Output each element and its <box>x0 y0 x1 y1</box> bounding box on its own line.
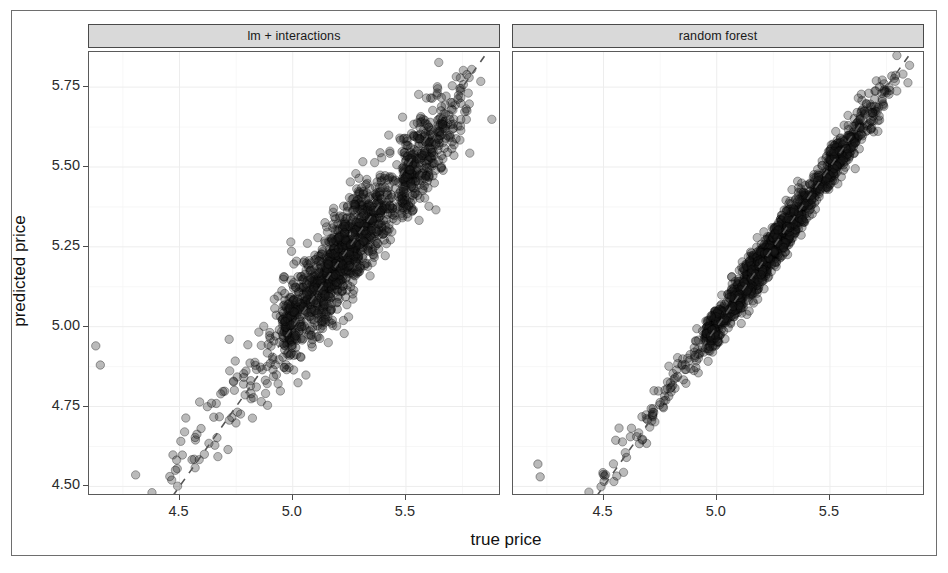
scatter-point <box>447 120 455 128</box>
scatter-point <box>891 77 899 85</box>
scatter-point <box>798 179 806 187</box>
scatter-point <box>324 260 332 268</box>
scatter-point <box>210 413 218 421</box>
scatter-point <box>488 115 496 123</box>
scatter-point <box>334 245 342 253</box>
scatter-point <box>229 378 237 386</box>
scatter-point <box>382 226 390 234</box>
scatter-canvas-random-forest <box>513 52 924 495</box>
y-tick-mark <box>83 86 88 87</box>
scatter-point <box>816 185 824 193</box>
scatter-point <box>321 318 329 326</box>
scatter-point <box>813 165 821 173</box>
scatter-point <box>802 215 810 223</box>
scatter-point <box>403 203 411 211</box>
scatter-point <box>442 92 450 100</box>
scatter-point <box>477 77 485 85</box>
scatter-point <box>739 264 747 272</box>
scatter-point <box>707 313 715 321</box>
faceted-scatter-plot: lm + interactions random forest 4.504.75… <box>0 0 948 573</box>
scatter-point <box>281 317 289 325</box>
scatter-point <box>862 99 870 107</box>
scatter-point <box>905 61 913 69</box>
scatter-point <box>846 133 854 141</box>
scatter-point <box>627 424 635 432</box>
scatter-point <box>248 414 256 422</box>
scatter-point <box>344 313 352 321</box>
scatter-point <box>378 154 386 162</box>
scatter-point <box>384 176 392 184</box>
scatter-point <box>340 329 348 337</box>
scatter-point <box>177 437 185 445</box>
scatter-point <box>678 360 686 368</box>
scatter-point <box>359 209 367 217</box>
scatter-point <box>615 424 623 432</box>
scatter-point <box>753 295 761 303</box>
scatter-point <box>280 273 288 281</box>
scatter-point <box>178 451 186 459</box>
scatter-point <box>287 238 295 246</box>
scatter-point <box>465 100 473 108</box>
scatter-point <box>292 331 300 339</box>
scatter-point <box>240 369 248 377</box>
scatter-point <box>403 141 411 149</box>
scatter-point <box>226 367 234 375</box>
scatter-point <box>349 295 357 303</box>
scatter-point <box>626 433 634 441</box>
scatter-point <box>307 259 315 267</box>
scatter-point <box>618 438 626 446</box>
scatter-point <box>275 326 283 334</box>
scatter-point <box>466 149 474 157</box>
x-tick-mark <box>829 495 830 500</box>
scatter-point <box>403 173 411 181</box>
scatter-point <box>314 257 322 265</box>
scatter-point <box>203 403 211 411</box>
scatter-point <box>830 147 838 155</box>
scatter-point <box>415 216 423 224</box>
scatter-point <box>359 158 367 166</box>
scatter-point <box>321 292 329 300</box>
scatter-point <box>585 488 593 495</box>
scatter-point <box>734 291 742 299</box>
scatter-point <box>320 301 328 309</box>
scatter-point <box>737 319 745 327</box>
scatter-point <box>171 466 179 474</box>
scatter-point <box>224 445 232 453</box>
scatter-point <box>869 112 877 120</box>
y-tick-mark <box>83 485 88 486</box>
scatter-point <box>435 58 443 66</box>
scatter-point <box>429 106 437 114</box>
scatter-point <box>131 471 139 479</box>
scatter-point <box>197 424 205 432</box>
scatter-point <box>711 331 719 339</box>
scatter-point <box>773 233 781 241</box>
scatter-point <box>386 236 394 244</box>
scatter-point-outlier <box>96 361 104 369</box>
scatter-point <box>225 335 233 343</box>
scatter-point <box>413 119 421 127</box>
x-tick-mark <box>603 495 604 500</box>
scatter-point <box>439 155 447 163</box>
x-tick-label: 5.0 <box>686 503 746 519</box>
scatter-point <box>366 272 374 280</box>
scatter-point <box>363 259 371 267</box>
scatter-point <box>231 357 239 365</box>
identity-reference-line <box>173 52 488 495</box>
x-tick-mark <box>179 495 180 500</box>
scatter-point <box>269 372 277 380</box>
scatter-point <box>830 164 838 172</box>
scatter-point <box>148 488 156 495</box>
scatter-point <box>257 397 265 405</box>
scatter-point <box>880 102 888 110</box>
y-tick-mark <box>83 246 88 247</box>
scatter-point <box>287 247 295 255</box>
x-axis-title: true price <box>88 530 924 550</box>
scatter-panel-lm-interactions <box>88 51 500 495</box>
scatter-point <box>874 127 882 135</box>
scatter-point <box>217 390 225 398</box>
scatter-point <box>788 185 796 193</box>
x-tick-label: 5.5 <box>799 503 859 519</box>
scatter-point <box>346 178 354 186</box>
scatter-point <box>276 387 284 395</box>
scatter-point <box>307 326 315 334</box>
